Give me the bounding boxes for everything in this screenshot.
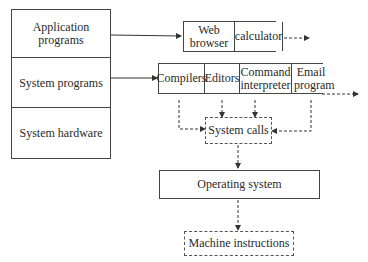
sys-editors: Editors — [205, 64, 240, 93]
operating-system-box: Operating system — [159, 170, 320, 199]
application-programs-row: Web browser calculator — [183, 21, 276, 52]
layer-label: System hardware — [20, 127, 103, 140]
layer-system-programs: System programs — [11, 57, 111, 108]
layer-system-hardware: System hardware — [11, 107, 111, 159]
system-programs-row: Compilers Editors Command interpreter Em… — [158, 63, 323, 94]
sys-email-program: Email program — [292, 64, 330, 93]
layer-label: Application programs — [12, 21, 110, 47]
sys-command-interpreter: Command interpreter — [240, 64, 292, 93]
system-calls-box: System calls — [205, 117, 272, 144]
layer-label: System programs — [19, 77, 103, 90]
layer-application-programs: Application programs — [11, 9, 111, 58]
app-web-browser: Web browser — [184, 22, 235, 51]
machine-instructions-box: Machine instructions — [184, 231, 294, 256]
sys-compilers: Compilers — [159, 64, 205, 93]
app-calculator: calculator — [235, 22, 283, 51]
